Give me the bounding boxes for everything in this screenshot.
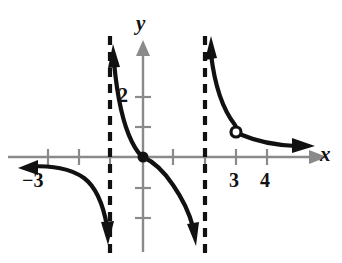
coordinate-plane-svg (0, 0, 342, 263)
curve-right-branch-right-arrowhead (292, 138, 315, 153)
x-tick-label-neg3: −3 (22, 170, 43, 190)
curve-middle-branch-down-arrowhead (187, 222, 199, 246)
curve-right-branch-path (211, 54, 238, 132)
curve-right-branch (205, 36, 315, 153)
x-axis-label: x (320, 144, 331, 165)
y-axis-group (136, 40, 150, 252)
graph-figure: x y −3 3 4 2 (0, 0, 342, 263)
x-axis-group (8, 150, 327, 164)
curve-middle-branch (108, 44, 199, 246)
x-tick-label-4: 4 (260, 170, 270, 190)
removable-discontinuity-hole (231, 127, 241, 137)
y-axis-label: y (136, 13, 145, 34)
y-tick-label-2: 2 (118, 85, 128, 105)
y-axis-arrowhead (136, 40, 150, 56)
x-intercept-point (138, 152, 149, 163)
curve-right-branch-tail-path (242, 135, 296, 146)
x-tick-label-3: 3 (229, 170, 239, 190)
